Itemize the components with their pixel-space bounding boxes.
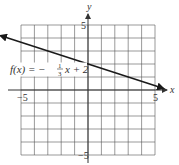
fraction-numerator: 1 (58, 62, 62, 70)
y-tick-label: 5 (81, 20, 86, 31)
function-label-suffix: x + 2 (64, 63, 89, 75)
y-axis-label: y (86, 1, 92, 12)
fraction-denominator: 3 (58, 70, 62, 78)
x-tick-label: 5 (153, 92, 158, 103)
x-tick-label: −5 (17, 92, 28, 103)
y-tick-label: −5 (78, 150, 89, 161)
function-graph: x y −555−5 f(x) = −13x + 2 (0, 0, 179, 165)
annotations: f(x) = −13x + 2 (9, 62, 89, 78)
x-axis-label: x (169, 84, 175, 95)
function-label-prefix: f(x) = − (10, 63, 46, 76)
